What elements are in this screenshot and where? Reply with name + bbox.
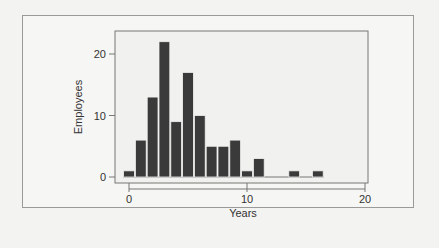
histogram-bar	[242, 171, 253, 177]
histogram-bar	[218, 146, 229, 177]
histogram-bar	[230, 140, 241, 177]
histogram-bar	[206, 146, 217, 177]
histogram-bar	[171, 122, 182, 177]
x-axis-title: Years	[229, 207, 257, 219]
x-tick-label: 0	[126, 193, 132, 205]
histogram-bar	[194, 116, 205, 178]
y-tick-label: 20	[94, 48, 106, 60]
y-tick-label: 0	[100, 171, 106, 183]
histogram-bar	[135, 140, 146, 177]
histogram-bar	[159, 42, 170, 177]
histogram-bar	[183, 72, 194, 177]
x-axis: 01020	[126, 183, 371, 205]
histogram-bar	[147, 97, 158, 177]
x-tick-label: 20	[359, 193, 371, 205]
histogram-bar	[253, 159, 264, 177]
y-axis-title: Employees	[72, 79, 84, 134]
histogram-bar	[289, 171, 300, 177]
y-axis: 01020	[94, 48, 115, 183]
histogram-chart: 01020 01020 Years Employees	[0, 0, 439, 248]
y-tick-label: 10	[94, 110, 106, 122]
histogram-bar	[124, 171, 135, 177]
x-tick-label: 10	[241, 193, 253, 205]
histogram-bar	[312, 171, 323, 177]
